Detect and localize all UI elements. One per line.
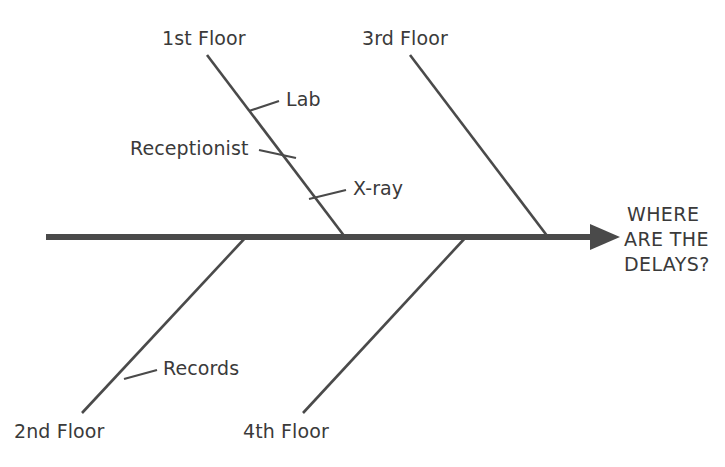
category-label-second-floor: 2nd Floor [14,422,104,441]
fishbone-diagram-graphics [0,0,725,467]
cause-label-records: Records [163,359,239,378]
effect-statement-line-3: DELAYS? [624,252,710,276]
cause-label-xray: X-ray [353,179,403,198]
bone-line-fourth-floor [303,237,466,413]
fishbone-diagram-canvas: 1st Floor 3rd Floor 2nd Floor 4th Floor … [0,0,725,467]
category-label-third-floor: 3rd Floor [362,29,448,48]
spine-arrowhead-icon [590,224,620,250]
whisker-line-xray [309,190,346,199]
cause-label-receptionist: Receptionist [130,139,248,158]
category-label-first-floor: 1st Floor [162,29,246,48]
whisker-line-records [124,370,157,379]
bone-line-third-floor [410,55,548,237]
effect-statement-line-1: WHERE [627,202,699,226]
cause-label-lab: Lab [286,90,321,109]
effect-statement-line-2: ARE THE [624,227,709,251]
category-label-fourth-floor: 4th Floor [243,422,329,441]
bone-line-second-floor [82,237,246,413]
whisker-line-receptionist [259,150,296,158]
whisker-line-lab [249,101,279,111]
